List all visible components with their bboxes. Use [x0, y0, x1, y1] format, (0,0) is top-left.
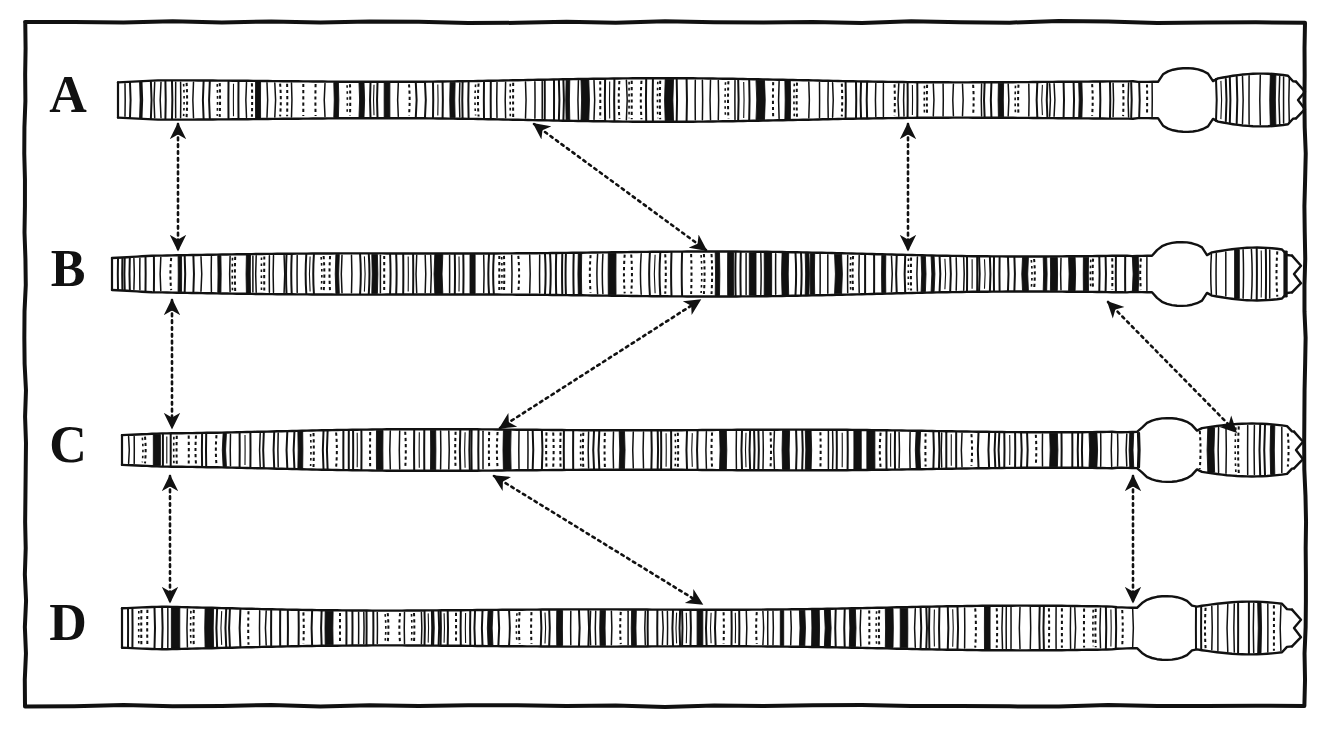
outlined-band	[649, 253, 650, 295]
outlined-band	[991, 83, 992, 116]
outlined-band	[433, 611, 434, 644]
solid-dark-band	[854, 431, 861, 469]
outlined-band-inner-line	[953, 609, 954, 647]
outlined-band	[979, 257, 980, 290]
outlined-band	[541, 611, 542, 646]
thin-line-band	[530, 255, 531, 293]
chromosome-d[interactable]	[122, 596, 1301, 660]
solid-dark-band	[222, 434, 226, 467]
outlined-band	[1131, 83, 1132, 117]
outlined-band	[660, 253, 661, 295]
solid-dark-band	[171, 608, 179, 648]
solid-dark-band	[824, 610, 831, 646]
thin-line-band	[590, 611, 591, 645]
outlined-band	[1139, 433, 1140, 467]
outlined-band	[313, 255, 314, 294]
thin-line-band	[1100, 608, 1101, 648]
thin-line-band	[1211, 254, 1212, 293]
thin-line-band	[425, 255, 426, 292]
outlined-band	[801, 253, 802, 294]
solid-dark-band	[785, 81, 791, 119]
outlined-band	[155, 608, 156, 649]
solid-dark-band	[697, 611, 703, 646]
thin-line-band	[594, 81, 595, 120]
row-label-group: ABCD	[49, 66, 87, 651]
connector-group	[170, 124, 1236, 604]
solid-dark-band	[780, 610, 783, 645]
solid-dark-band	[1022, 258, 1029, 291]
thin-line-band	[602, 254, 603, 294]
chromosome-a[interactable]	[118, 68, 1305, 132]
thin-line-band	[1050, 84, 1051, 117]
outlined-band	[1226, 79, 1227, 121]
solid-dark-band	[487, 611, 493, 645]
solid-dark-band	[608, 253, 616, 294]
solid-dark-band	[178, 256, 182, 291]
chromosome-c[interactable]	[122, 418, 1303, 482]
thin-line-band	[1002, 608, 1003, 649]
outlined-band	[978, 433, 979, 467]
solid-dark-band	[325, 611, 333, 644]
thin-line-band	[160, 82, 161, 118]
thin-line-band	[1251, 249, 1252, 298]
solid-dark-band	[470, 255, 475, 294]
figure-border	[24, 21, 1306, 707]
thin-line-band	[324, 83, 325, 116]
connector-b-c-diagonal[interactable]	[500, 300, 700, 428]
outlined-band	[686, 431, 687, 469]
row-label-a: A	[49, 66, 87, 123]
row-label-b: B	[51, 240, 86, 297]
chromosome-b[interactable]	[112, 242, 1301, 306]
solid-dark-band	[805, 254, 809, 295]
thin-line-band	[1260, 75, 1261, 124]
solid-dark-band	[984, 607, 990, 649]
outlined-band	[1264, 425, 1265, 475]
outlined-band	[896, 256, 897, 292]
connector-a-b-diagonal[interactable]	[534, 124, 706, 250]
thin-line-band	[1019, 607, 1020, 648]
solid-dark-band	[1083, 257, 1088, 291]
solid-dark-band	[720, 431, 727, 469]
chromosome-terminal-tip	[1292, 610, 1301, 647]
solid-dark-band	[756, 80, 765, 119]
outlined-band	[988, 433, 989, 467]
outlined-band	[323, 431, 324, 469]
connector-b-c-diagonal-right[interactable]	[1108, 302, 1236, 432]
outlined-band	[579, 610, 580, 645]
solid-dark-band	[334, 83, 339, 118]
outlined-band	[185, 256, 186, 292]
outlined-band	[921, 608, 922, 648]
solid-dark-band	[431, 430, 436, 470]
thin-line-band	[193, 82, 194, 118]
thin-line-band	[1243, 76, 1244, 123]
solid-dark-band	[434, 255, 443, 294]
solid-dark-band	[921, 256, 926, 291]
connector-c-d-diagonal[interactable]	[494, 476, 702, 604]
thin-line-band	[1075, 608, 1076, 648]
outlined-band	[680, 611, 681, 646]
thin-line-band	[284, 256, 285, 293]
solid-dark-band	[503, 431, 511, 470]
chromosome-group	[112, 68, 1305, 660]
thin-line-band	[416, 255, 417, 292]
thin-line-band	[1126, 434, 1127, 466]
outlined-band	[958, 607, 959, 649]
outlined-band	[1139, 83, 1140, 117]
thin-line-band	[341, 255, 342, 293]
thin-line-band	[964, 258, 965, 290]
outlined-band	[1037, 83, 1038, 117]
solid-dark-band	[246, 255, 250, 293]
outlined-band	[193, 256, 194, 292]
thin-line-band	[526, 82, 527, 118]
solid-dark-band	[205, 609, 214, 647]
thin-line-band	[860, 610, 861, 646]
outlined-band	[151, 82, 152, 118]
thin-line-band	[160, 257, 161, 290]
outlined-band-inner-line	[545, 613, 546, 644]
outlined-band	[482, 611, 483, 645]
solid-dark-band	[915, 432, 920, 468]
outlined-band	[321, 611, 322, 645]
solid-dark-band	[665, 79, 674, 121]
thin-line-band	[763, 611, 764, 644]
outlined-band	[750, 431, 751, 469]
